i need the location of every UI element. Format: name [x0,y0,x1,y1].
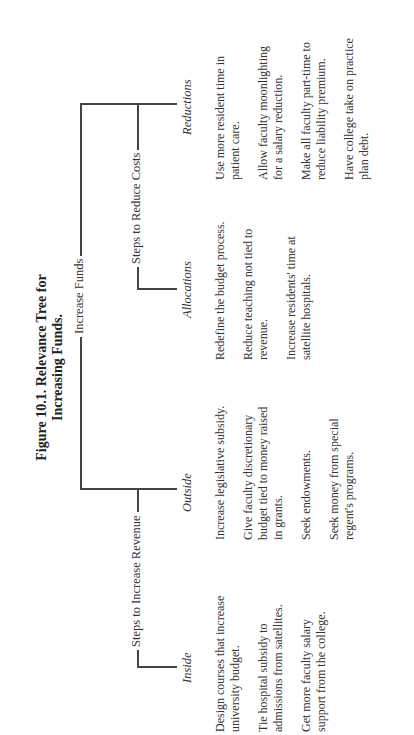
root-node-label: Increase Funds [72,256,87,337]
branch-label-increase-revenue: Steps to Increase Revenue [129,512,144,650]
list-item: Have college take on practice plan debt. [342,30,372,180]
category-label-outside: Outside [180,473,195,512]
outside-items-list: Increase legislative subsidy. Give facul… [213,400,370,540]
rotated-document-page: Figure 10.1. Relevance Tree for Increasi… [0,0,414,735]
inside-items-list: Design courses that increase university … [213,582,342,732]
category-label-reductions: Reductions [180,79,195,135]
reductions-drop-line [137,104,177,106]
costs-drop-line [80,104,137,106]
outside-drop-line [137,489,177,491]
list-item: Tie hospital subsidy to admissions from … [256,582,286,732]
list-item: Seek endowments. [299,400,314,540]
category-label-allocations: Allocations [180,261,195,318]
allocations-items-list: Redefine the budget process. Reduce teac… [213,215,327,360]
branch-label-reduce-costs: Steps to Reduce Costs [129,150,144,267]
list-item: Give faculty discretionary budget tied t… [241,400,286,540]
list-item: Reduce teaching not tied to revenue. [241,215,271,360]
figure-title-line-2: Increasing Funds. [50,0,66,735]
list-item: Increase legislative subsidy. [213,400,228,540]
list-item: Seek money from special regent's program… [327,400,357,540]
revenue-drop-line [80,489,137,491]
inside-drop-line [137,667,177,669]
list-item: Make all faculty part-time to reduce lia… [299,30,329,180]
list-item: Design courses that increase university … [213,582,243,732]
allocations-drop-line [137,289,177,291]
reductions-items-list: Use more resident time in patient care. … [213,30,385,180]
figure-title: Figure 10.1. Relevance Tree for Increasi… [34,0,66,735]
figure-title-line-1: Figure 10.1. Relevance Tree for [34,0,50,735]
list-item: Redefine the budget process. [213,215,228,360]
list-item: Use more resident time in patient care. [213,30,243,180]
category-label-inside: Inside [180,652,195,683]
list-item: Allow faculty moonlighting for a salary … [256,30,286,180]
list-item: Increase residents' time at satellite ho… [284,215,314,360]
list-item: Get more faculty salary support from the… [299,582,329,732]
